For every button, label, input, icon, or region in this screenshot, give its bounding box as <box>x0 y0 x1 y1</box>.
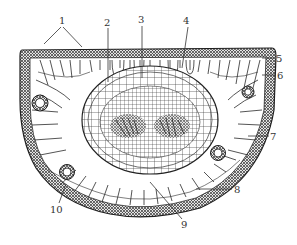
svg-text:4: 4 <box>183 15 189 26</box>
svg-text:9: 9 <box>181 219 187 230</box>
label-1: 1 <box>44 15 82 47</box>
svg-text:8: 8 <box>234 184 240 195</box>
svg-text:1: 1 <box>59 15 65 26</box>
svg-text:3: 3 <box>138 14 144 25</box>
svg-text:2: 2 <box>104 17 110 28</box>
svg-text:6: 6 <box>277 70 283 81</box>
svg-text:10: 10 <box>50 204 63 215</box>
cross-section-diagram: 1 2 3 4 5 6 7 8 <box>0 0 297 245</box>
vascular-cylinder <box>82 66 218 174</box>
svg-text:7: 7 <box>270 131 276 142</box>
svg-text:5: 5 <box>276 53 282 64</box>
